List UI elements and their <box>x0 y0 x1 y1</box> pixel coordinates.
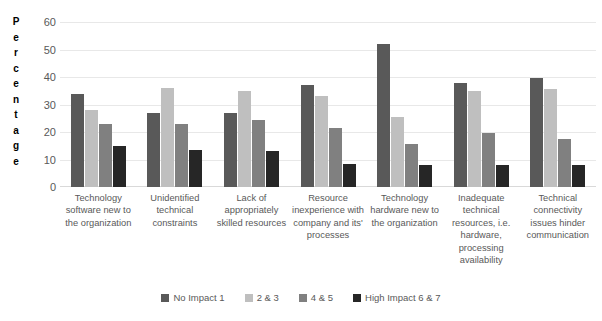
legend-item[interactable]: No Impact 1 <box>161 292 224 303</box>
legend-label: 4 & 5 <box>311 292 333 303</box>
y-axis-title-letter: g <box>8 138 24 154</box>
x-axis-category-label: Technology software new to the organizat… <box>60 192 137 266</box>
bar-slot <box>405 144 418 187</box>
legend-swatch-icon <box>161 294 169 302</box>
legend-item[interactable]: High Impact 6 & 7 <box>353 292 441 303</box>
bar-group <box>137 22 214 187</box>
bar[interactable] <box>266 151 279 187</box>
bar-slot <box>558 139 571 187</box>
legend-label: 2 & 3 <box>257 292 279 303</box>
bar-group <box>213 22 290 187</box>
x-axis-category-label: Resource inexperience with company and i… <box>290 192 367 266</box>
bar-slot <box>71 94 84 188</box>
bar-slot <box>391 117 404 187</box>
bar-group <box>443 22 520 187</box>
bar[interactable] <box>161 88 174 187</box>
bar[interactable] <box>530 78 543 187</box>
x-axis-category-label: Inadequate technical resources, i.e. har… <box>443 192 520 266</box>
bar[interactable] <box>496 165 509 187</box>
bar[interactable] <box>558 139 571 187</box>
legend-item[interactable]: 4 & 5 <box>299 292 333 303</box>
legend-item[interactable]: 2 & 3 <box>245 292 279 303</box>
bar-slot <box>468 91 481 187</box>
bar-slot <box>238 91 251 187</box>
y-axis-tick-label: 50 <box>26 44 56 56</box>
y-axis-title-letter: n <box>8 92 24 108</box>
bar-group <box>290 22 367 187</box>
bar-slot <box>377 44 390 187</box>
bar[interactable] <box>85 110 98 187</box>
bar[interactable] <box>544 89 557 187</box>
bar[interactable] <box>238 91 251 187</box>
bar[interactable] <box>147 113 160 187</box>
bar-slot <box>496 165 509 187</box>
y-axis-tick-label: 60 <box>26 16 56 28</box>
bar[interactable] <box>315 96 328 187</box>
bar-slot <box>252 120 265 187</box>
y-axis-title-letter: P <box>8 14 24 30</box>
bar-slot <box>175 124 188 187</box>
bar-groups <box>60 22 596 187</box>
bar[interactable] <box>391 117 404 187</box>
y-axis-title-letter: e <box>8 154 24 170</box>
legend-label: No Impact 1 <box>173 292 224 303</box>
bar[interactable] <box>377 44 390 187</box>
bar-slot <box>454 83 467 188</box>
bar[interactable] <box>189 150 202 187</box>
legend-swatch-icon <box>299 294 307 302</box>
bar-slot <box>266 151 279 187</box>
bar[interactable] <box>301 85 314 187</box>
legend-label: High Impact 6 & 7 <box>365 292 441 303</box>
legend-swatch-icon <box>353 294 361 302</box>
x-axis-category-label: Technical connectivity issues hinder com… <box>519 192 596 266</box>
bar-slot <box>572 165 585 187</box>
bar-slot <box>329 128 342 187</box>
bar[interactable] <box>419 165 432 187</box>
bar[interactable] <box>405 144 418 187</box>
chart-legend: No Impact 12 & 34 & 5High Impact 6 & 7 <box>0 292 602 303</box>
bar-slot <box>189 150 202 187</box>
x-axis-category-label: Technology hardware new to the organizat… <box>366 192 443 266</box>
bar[interactable] <box>343 164 356 187</box>
bar-slot <box>482 133 495 187</box>
bar-slot <box>224 113 237 187</box>
x-axis-category-labels: Technology software new to the organizat… <box>60 192 596 266</box>
legend-swatch-icon <box>245 294 253 302</box>
y-axis-tick-labels: 0102030405060 <box>26 14 56 194</box>
bar-slot <box>147 113 160 187</box>
y-axis-title: Percentage <box>8 14 24 169</box>
y-axis-title-letter: r <box>8 45 24 61</box>
bar-group <box>60 22 137 187</box>
y-axis-tick-label: 10 <box>26 154 56 166</box>
bar-slot <box>419 165 432 187</box>
bar[interactable] <box>113 146 126 187</box>
bar-slot <box>301 85 314 187</box>
y-axis-tick-label: 40 <box>26 71 56 83</box>
bar[interactable] <box>329 128 342 187</box>
bar[interactable] <box>224 113 237 187</box>
bar-slot <box>544 89 557 187</box>
bar[interactable] <box>99 124 112 187</box>
bar[interactable] <box>572 165 585 187</box>
bar-slot <box>99 124 112 187</box>
bar[interactable] <box>252 120 265 187</box>
bar-slot <box>315 96 328 187</box>
bar-slot <box>343 164 356 187</box>
y-axis-title-letter: e <box>8 76 24 92</box>
bar[interactable] <box>454 83 467 188</box>
plot-area <box>60 22 596 187</box>
y-axis-title-letter: a <box>8 123 24 139</box>
bar[interactable] <box>71 94 84 188</box>
y-axis-title-letter: t <box>8 107 24 123</box>
y-axis-title-letter: c <box>8 61 24 77</box>
bar[interactable] <box>468 91 481 187</box>
bar[interactable] <box>175 124 188 187</box>
bar-slot <box>161 88 174 187</box>
bar[interactable] <box>482 133 495 187</box>
bar-group <box>519 22 596 187</box>
bar-slot <box>530 78 543 187</box>
y-axis-tick-label: 30 <box>26 99 56 111</box>
y-axis-tick-label: 0 <box>26 181 56 193</box>
y-axis-title-letter: e <box>8 30 24 46</box>
x-axis-category-label: Lack of appropriately skilled resources <box>213 192 290 266</box>
